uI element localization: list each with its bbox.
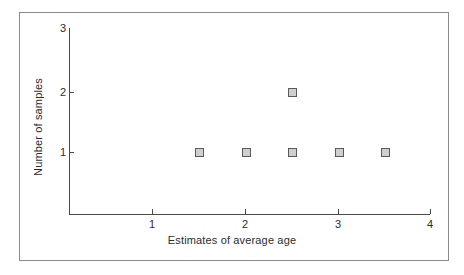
y-ticklabel-3: 3 [44,22,66,34]
x-axis-title: Estimates of average age [0,234,464,246]
y-ticklabel-1: 1 [44,146,66,158]
x-tick-4 [430,209,431,214]
x-tick-3 [338,209,339,214]
y-axis-title: Number of samples [32,78,44,176]
y-ticklabel-2: 2 [44,86,66,98]
y-tick-2 [69,92,74,93]
x-tick-1 [152,209,153,214]
y-tick-1 [69,152,74,153]
data-point [335,148,344,157]
data-point [242,148,251,157]
y-axis-title-wrapper: Number of samples [31,120,45,134]
x-axis-line [69,214,430,215]
x-ticklabel-1: 1 [141,218,163,230]
x-ticklabel-2: 2 [234,218,256,230]
data-point [288,148,297,157]
data-point [195,148,204,157]
y-axis-line [69,28,70,215]
data-point [381,148,390,157]
data-point [288,88,297,97]
x-tick-2 [245,209,246,214]
plot-area: 1 2 3 1 2 3 4 Number of samples Estimate… [0,0,464,275]
x-ticklabel-4: 4 [419,218,441,230]
chart-figure: 1 2 3 1 2 3 4 Number of samples Estimate… [0,0,464,275]
x-ticklabel-3: 3 [327,218,349,230]
